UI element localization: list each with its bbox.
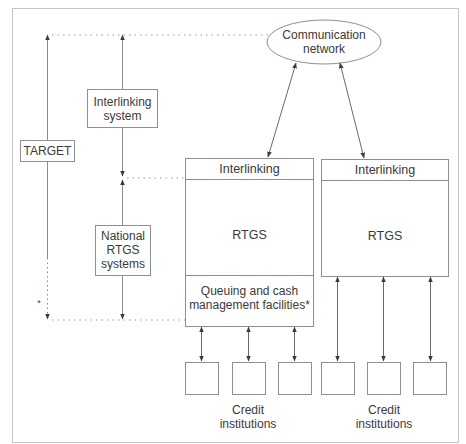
network-to-right-arrow — [340, 63, 364, 158]
credit-right-line1: Credit — [344, 403, 424, 417]
national-rtgs-line2: RTGS — [95, 243, 151, 257]
left-queue-label: Queuing and cash management facilities* — [185, 284, 314, 312]
network-to-left-arrow — [268, 63, 296, 157]
credit-institution-box — [186, 363, 219, 395]
credit-institution-box — [414, 363, 447, 395]
national-rtgs-line3: systems — [95, 257, 151, 271]
right-interlinking-label: Interlinking — [321, 163, 449, 177]
queue-line1: Queuing and cash — [185, 284, 314, 298]
left-rtgs-label: RTGS — [185, 228, 314, 242]
target-label: TARGET — [20, 144, 75, 158]
communication-network-label: Communication network — [267, 28, 381, 56]
credit-left-line2: institutions — [208, 417, 288, 431]
right-rtgs-block — [322, 160, 449, 277]
credit-institution-box — [368, 363, 401, 395]
interlinking-system-line1: Interlinking — [87, 95, 158, 109]
interlinking-system-label: Interlinking system — [87, 95, 158, 123]
credit-left-line1: Credit — [208, 403, 288, 417]
credit-institution-box — [322, 363, 355, 395]
credit-institutions-left-label: Credit institutions — [208, 403, 288, 431]
communication-network-line1: Communication — [267, 28, 381, 42]
footnote-asterisk: * — [34, 296, 44, 310]
credit-institution-box — [279, 363, 312, 395]
credit-institutions-right-label: Credit institutions — [344, 403, 424, 431]
national-rtgs-label: National RTGS systems — [95, 229, 151, 271]
credit-institution-box — [233, 363, 266, 395]
diagram-lines — [0, 0, 466, 444]
national-rtgs-line1: National — [95, 229, 151, 243]
diagram-canvas: Communication network Interlinking syste… — [0, 0, 466, 444]
right-rtgs-label: RTGS — [321, 229, 449, 243]
communication-network-line2: network — [267, 42, 381, 56]
interlinking-system-line2: system — [87, 109, 158, 123]
queue-line2: management facilities* — [185, 298, 314, 312]
credit-right-line2: institutions — [344, 417, 424, 431]
left-interlinking-label: Interlinking — [185, 162, 314, 176]
